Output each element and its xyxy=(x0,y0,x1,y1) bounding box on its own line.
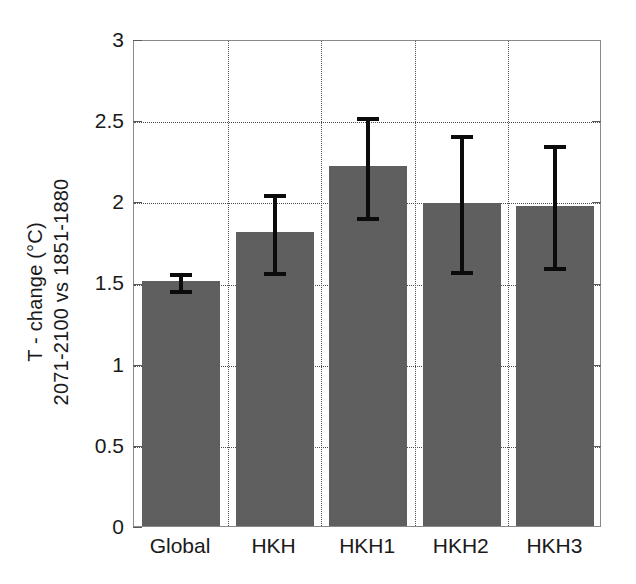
y-tick-mark-1 xyxy=(133,365,142,366)
y-tick-mark-right-0.5 xyxy=(592,446,601,447)
y-tick-label-1.5: 1.5 xyxy=(76,272,124,293)
gridline-x-2 xyxy=(321,41,322,526)
bar-chart-figure: T - change (°C) 2071-2100 vs 1851-1880 xyxy=(0,0,636,584)
y-tick-label-1: 1 xyxy=(86,354,124,375)
y-tick-mark-3 xyxy=(133,40,142,41)
y-tick-mark-2.5 xyxy=(133,121,142,122)
y-tick-mark-right-2 xyxy=(592,202,601,203)
error-bar-cap-top xyxy=(544,145,566,149)
gridline-x-1 xyxy=(228,41,229,526)
y-tick-label-3: 3 xyxy=(86,29,124,50)
y-tick-mark-0 xyxy=(133,527,142,528)
error-bar-cap-bottom xyxy=(264,272,286,276)
y-tick-mark-right-1 xyxy=(592,365,601,366)
y-tick-mark-right-1.5 xyxy=(592,284,601,285)
x-tick-label-hkh3: HKH3 xyxy=(507,534,601,558)
error-bar-cap-top xyxy=(170,273,192,277)
bar-global xyxy=(142,281,220,526)
plot-area xyxy=(133,40,601,527)
error-bar-stem xyxy=(553,145,557,272)
error-bar-cap-top xyxy=(357,117,379,121)
x-tick-label-global: Global xyxy=(133,534,227,558)
error-bar-cap-top xyxy=(451,135,473,139)
error-bar-hkh1 xyxy=(329,117,407,221)
error-bar-stem xyxy=(366,117,370,221)
x-tick-label-hkh: HKH xyxy=(227,534,321,558)
error-bar-cap-bottom xyxy=(357,217,379,221)
y-tick-mark-0.5 xyxy=(133,446,142,447)
error-bar-cap-top xyxy=(264,194,286,198)
gridline-x-3 xyxy=(415,41,416,526)
y-tick-mark-1.5 xyxy=(133,284,142,285)
x-tick-label-hkh1: HKH1 xyxy=(320,534,414,558)
error-bar-global xyxy=(142,273,220,294)
y-tick-label-2.5: 2.5 xyxy=(76,110,124,131)
y-tick-label-2: 2 xyxy=(86,191,124,212)
error-bar-hkh2 xyxy=(423,135,501,275)
y-axis-title-line2: 2071-2100 vs 1851-1880 xyxy=(48,179,74,406)
y-axis-title-line1: T - change (°C) xyxy=(22,179,48,406)
y-tick-mark-right-2.5 xyxy=(592,121,601,122)
error-bar-hkh xyxy=(236,194,314,277)
error-bar-stem xyxy=(460,135,464,275)
error-bar-cap-bottom xyxy=(544,267,566,271)
x-tick-label-hkh2: HKH2 xyxy=(414,534,508,558)
y-tick-label-0: 0 xyxy=(86,516,124,537)
error-bar-hkh3 xyxy=(516,145,594,272)
y-tick-label-0.5: 0.5 xyxy=(76,435,124,456)
y-tick-mark-2 xyxy=(133,202,142,203)
error-bar-cap-bottom xyxy=(170,290,192,294)
error-bar-stem xyxy=(273,194,277,277)
gridline-x-4 xyxy=(508,41,509,526)
error-bar-cap-bottom xyxy=(451,271,473,275)
